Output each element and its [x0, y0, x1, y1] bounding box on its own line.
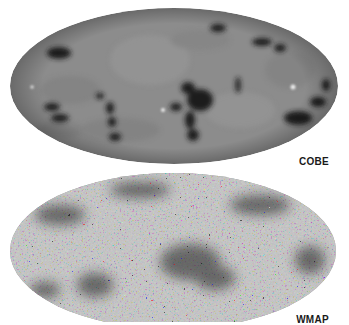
wmap-sky-map	[0, 160, 349, 322]
wmap-label: WMAP	[296, 314, 329, 325]
cobe-sky-map	[0, 0, 349, 170]
